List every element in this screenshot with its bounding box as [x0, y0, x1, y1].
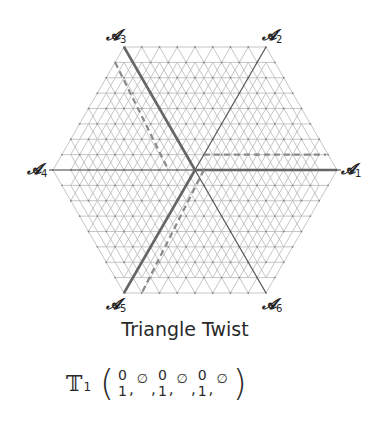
- term-separator: ,: [151, 380, 156, 398]
- lattice-point: [132, 215, 134, 217]
- vertex-label-a2: 𝓐2: [262, 26, 282, 45]
- lattice-point: [230, 77, 232, 79]
- lattice-point: [132, 92, 134, 94]
- lattice-point: [309, 184, 311, 186]
- lattice-point: [167, 246, 169, 248]
- lattice-point: [283, 200, 285, 202]
- lattice-point: [212, 77, 214, 79]
- lattice-point: [194, 200, 196, 202]
- lattice-point: [292, 154, 294, 156]
- empty-set-term: ∅: [177, 371, 188, 386]
- vertex-label-a1: 𝓐1: [341, 160, 361, 179]
- lattice-point: [141, 138, 143, 140]
- lattice-point: [327, 154, 329, 156]
- lattice-point: [61, 154, 63, 156]
- lattice-point: [283, 231, 285, 233]
- lattice-point: [96, 215, 98, 217]
- lattice-point: [203, 215, 205, 217]
- lattice-point: [114, 277, 116, 279]
- lattice-point: [292, 215, 294, 217]
- lattice-point: [292, 123, 294, 125]
- lattice-point: [265, 108, 267, 110]
- lattice-point: [230, 200, 232, 202]
- lattice-point: [194, 77, 196, 79]
- lattice-point: [238, 215, 240, 217]
- lattice-point: [132, 123, 134, 125]
- lattice-point: [96, 154, 98, 156]
- lattice-point: [167, 184, 169, 186]
- lattice-point: [301, 108, 303, 110]
- lattice-point: [150, 215, 152, 217]
- lattice-point: [256, 246, 258, 248]
- lattice-point: [265, 77, 267, 79]
- lattice-point: [167, 92, 169, 94]
- empty-set-term: ∅: [216, 371, 227, 386]
- lattice-point: [212, 261, 214, 263]
- lattice-point: [176, 77, 178, 79]
- lattice-point: [274, 215, 276, 217]
- lattice-point: [265, 200, 267, 202]
- lattice-point: [159, 292, 161, 294]
- term-separator: ,: [129, 380, 134, 398]
- lattice-point: [221, 277, 223, 279]
- lattice-point: [123, 77, 125, 79]
- lattice-point: [309, 215, 311, 217]
- lattice-point: [194, 138, 196, 140]
- lattice-point: [238, 61, 240, 63]
- stacked-term-top: 0: [118, 367, 127, 383]
- lattice-point: [238, 123, 240, 125]
- lattice-point: [88, 138, 90, 140]
- lattice-point: [247, 138, 249, 140]
- lattice-point: [256, 184, 258, 186]
- lattice-point: [292, 246, 294, 248]
- stacked-term-top: 0: [158, 367, 167, 383]
- lattice-point: [159, 46, 161, 48]
- lattice-point: [159, 200, 161, 202]
- lattice-point: [123, 231, 125, 233]
- lattice-point: [150, 184, 152, 186]
- lattice-point: [114, 154, 116, 156]
- lattice-point: [247, 108, 249, 110]
- lattice-point: [167, 154, 169, 156]
- lattice-point: [185, 61, 187, 63]
- lattice-point: [79, 184, 81, 186]
- lattice-point: [114, 123, 116, 125]
- lattice-point: [141, 292, 143, 294]
- lattice-point: [150, 123, 152, 125]
- lattice-point: [96, 246, 98, 248]
- lattice-point: [185, 277, 187, 279]
- lattice-point: [105, 138, 107, 140]
- lattice-point: [230, 261, 232, 263]
- lattice-point: [221, 154, 223, 156]
- lattice-point: [132, 154, 134, 156]
- lattice-point: [247, 292, 249, 294]
- lattice-point: [283, 77, 285, 79]
- twist-operator-index: 1: [83, 380, 91, 394]
- stacked-term-top: 0: [198, 367, 207, 383]
- lattice-point: [96, 123, 98, 125]
- lattice-point: [167, 61, 169, 63]
- lattice-point: [212, 108, 214, 110]
- lattice-point: [132, 184, 134, 186]
- stacked-term: 01: [158, 367, 167, 399]
- lattice-point: [274, 61, 276, 63]
- stacked-term-bottom: 1: [198, 383, 207, 399]
- lattice-point: [194, 231, 196, 233]
- lattice-point: [176, 292, 178, 294]
- lattice-point: [105, 77, 107, 79]
- lattice-point: [123, 108, 125, 110]
- lattice-point: [265, 261, 267, 263]
- term-separator: ,: [191, 380, 196, 398]
- lattice-point: [283, 261, 285, 263]
- lattice-point: [301, 231, 303, 233]
- vertex-label-a3: 𝓐3: [106, 26, 126, 45]
- lattice-point: [283, 138, 285, 140]
- lattice-point: [96, 184, 98, 186]
- lattice-point: [230, 292, 232, 294]
- lattice-point: [309, 123, 311, 125]
- lattice-point: [176, 46, 178, 48]
- lattice-point: [123, 138, 125, 140]
- lattice-point: [70, 138, 72, 140]
- lattice-point: [203, 61, 205, 63]
- lattice-point: [141, 200, 143, 202]
